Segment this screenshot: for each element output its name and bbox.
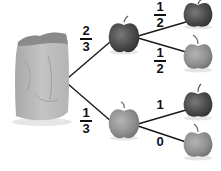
tree-graphics: [0, 0, 221, 171]
numerator: 1: [153, 47, 167, 59]
light-apple-icon: [109, 102, 140, 141]
prob-label-light: 1 3: [79, 107, 93, 135]
branch-light-to-dark: [138, 110, 186, 124]
light-apple-icon: [184, 35, 213, 73]
denominator: 2: [153, 63, 167, 75]
denominator: 3: [79, 41, 93, 53]
prob-label-dark-dark: 1 2: [153, 1, 167, 29]
denominator: 3: [79, 123, 93, 135]
probability-tree-diagram: 2 3 1 3 1 2 1 2 1 0: [0, 0, 221, 171]
prob-label-light-dark: 1: [153, 97, 167, 112]
dark-apple-icon: [184, 84, 213, 121]
bag-icon: [12, 32, 72, 126]
dark-apple-icon: [184, 0, 213, 30]
numerator: 1: [153, 1, 167, 13]
numerator: 2: [79, 25, 93, 37]
prob-label-light-light: 0: [153, 134, 167, 149]
dark-apple-icon: [109, 16, 140, 55]
light-apple-icon: [184, 124, 213, 161]
prob-label-dark-light: 1 2: [153, 47, 167, 75]
numerator: 1: [79, 107, 93, 119]
prob-label-dark: 2 3: [79, 25, 93, 53]
denominator: 2: [153, 17, 167, 29]
